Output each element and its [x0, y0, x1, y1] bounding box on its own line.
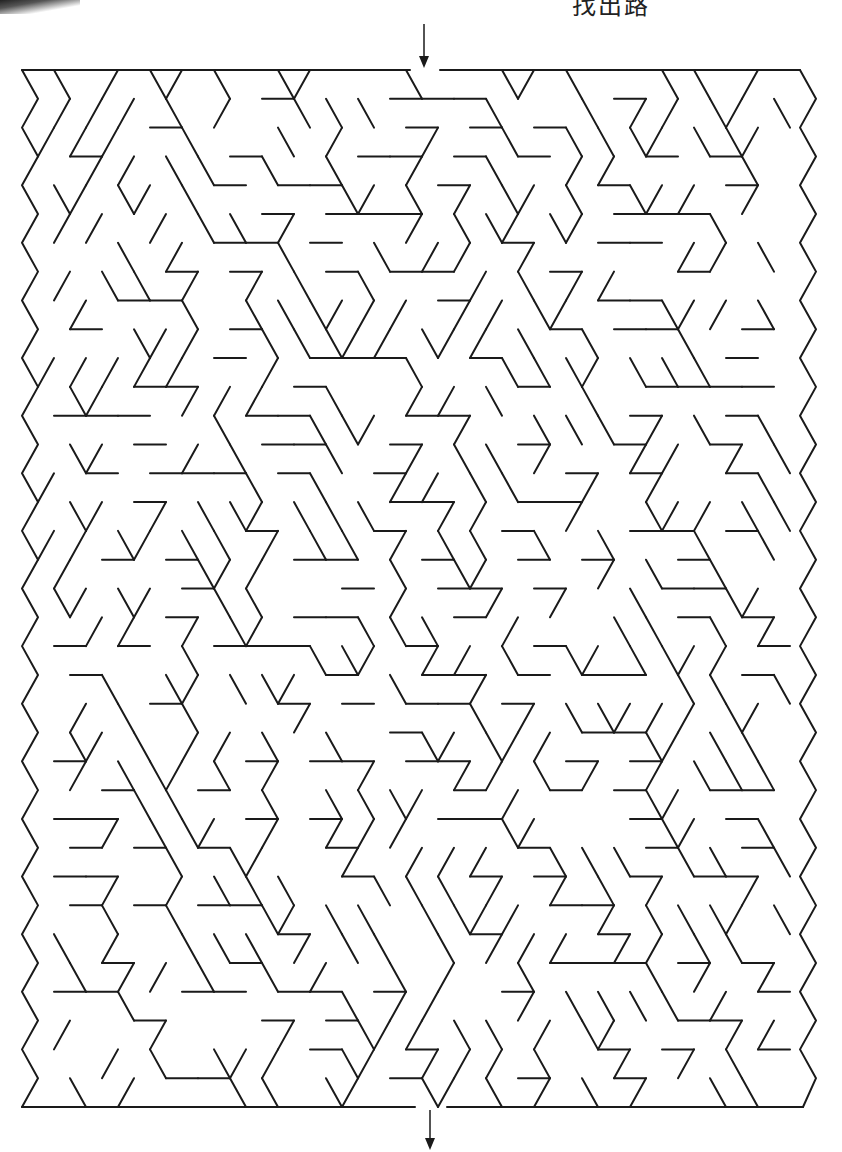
maze-walls [22, 70, 816, 1107]
exit-arrow-icon [425, 1110, 435, 1150]
maze[interactable] [0, 0, 842, 1152]
entrance-arrow-icon [419, 24, 429, 68]
